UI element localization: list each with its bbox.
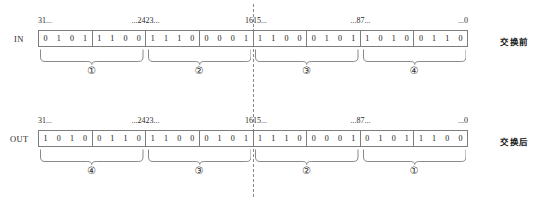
group-number: ③ [195,166,204,176]
bit-cell: 1 [280,131,293,146]
bit-cell: 0 [200,31,213,46]
bit-cell: 1 [428,31,441,46]
group-brace [148,149,252,165]
bit-cell: 0 [374,31,387,46]
bit-cell: 0 [200,131,213,146]
bit-ticks-in: 31......2423...1615......87......0 [38,16,468,28]
bit-cell: 0 [454,131,467,146]
group-number: ③ [302,66,311,76]
bit-cell: 1 [159,131,172,146]
bit-cell: 0 [320,131,333,146]
bit-cell: 0 [226,131,239,146]
bit-nibble: 1110 [254,131,308,146]
bit-cell: 1 [414,131,427,146]
bit-tick-label: 23... [146,16,160,25]
bit-cell: 0 [226,31,239,46]
bit-cell: 1 [267,31,280,46]
bit-cell: 1 [173,31,186,46]
group-number: ④ [87,166,96,176]
side-note-before: 交换前 [500,35,529,47]
bit-cell: 0 [293,31,306,46]
bit-tick-label: 7... [361,16,371,25]
bit-cell: 1 [65,131,78,146]
group-braces-out [38,149,468,165]
bit-cell: 0 [65,31,78,46]
bit-nibble: 1010 [361,31,415,46]
bit-cell: 0 [186,131,199,146]
bit-nibble: 1100 [254,31,308,46]
group-number: ② [195,66,204,76]
group-brace [40,149,144,165]
bit-cell: 1 [39,131,52,146]
bit-cell: 1 [320,31,333,46]
bit-cell: 0 [307,31,320,46]
bit-cell: 1 [239,31,252,46]
bit-tick-label: 15... [253,116,267,125]
group-number: ① [410,166,419,176]
bit-nibble: 1100 [414,131,467,146]
group-number: ① [87,66,96,76]
bit-cell: 1 [106,131,119,146]
row-label-out: OUT [10,134,29,144]
bit-cell: 0 [132,131,145,146]
group-braces-in [38,49,468,65]
bit-cell: 0 [173,131,186,146]
bit-tick-label: ...0 [458,116,468,125]
bit-cell: 1 [239,131,252,146]
bit-tick-label: ...8 [351,116,361,125]
bit-nibble: 1110 [146,31,200,46]
bit-cell: 0 [293,131,306,146]
bit-nibble: 0101 [361,131,415,146]
bit-cell: 1 [441,31,454,46]
bit-cell: 1 [387,31,400,46]
group-numbers-out: ④③②① [38,166,468,180]
bit-tick-label: 7... [361,116,371,125]
bit-cell: 1 [52,31,65,46]
bit-cell: 0 [361,131,374,146]
bit-cell: 1 [213,131,226,146]
bit-cell: 1 [347,131,360,146]
bit-cell: 0 [119,31,132,46]
group-brace [363,49,467,65]
bit-tick-label: ...24 [132,16,146,25]
bit-tick-label: 31... [38,116,52,125]
row-label-in: IN [14,34,24,44]
bit-nibble: 0110 [414,31,467,46]
group-numbers-in: ①②③④ [38,66,468,80]
bit-cell: 1 [146,31,159,46]
bit-cell: 0 [414,31,427,46]
bit-cell: 0 [400,31,413,46]
bit-nibble: 0110 [93,131,147,146]
bit-tick-label: 16 [245,116,253,125]
byte-swap-diagram: IN 交换前 31......2423...1615......87......… [0,0,546,201]
bit-cell: 1 [254,131,267,146]
group-brace [363,149,467,165]
bit-cell: 0 [132,31,145,46]
bit-nibble: 0001 [200,31,254,46]
bit-tick-label: ...24 [132,116,146,125]
group-brace [40,49,144,65]
bit-tick-label: 15... [253,16,267,25]
bit-cell: 0 [387,131,400,146]
bit-tick-label: ...8 [351,16,361,25]
group-brace [255,149,359,165]
bit-cell: 1 [267,131,280,146]
bit-field-in: 01011100111000011100010110100110 [38,30,468,47]
bit-cell: 1 [119,131,132,146]
bit-cell: 1 [347,31,360,46]
bit-nibble: 1010 [39,131,93,146]
bit-nibble: 0101 [39,31,93,46]
bit-nibble: 0101 [307,31,361,46]
side-note-after: 交换后 [500,135,529,147]
bit-cell: 0 [307,131,320,146]
bit-ticks-out: 31......2423...1615......87......0 [38,116,468,128]
group-brace [148,49,252,65]
bit-cell: 1 [106,31,119,46]
bit-cell: 0 [454,31,467,46]
bit-cell: 1 [93,31,106,46]
group-brace [255,49,359,65]
bit-nibble: 0001 [307,131,361,146]
bit-cell: 0 [186,31,199,46]
bit-cell: 1 [361,31,374,46]
bit-cell: 1 [78,31,91,46]
